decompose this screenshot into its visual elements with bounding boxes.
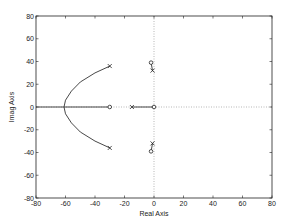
y-tick-label: 60 — [26, 35, 34, 42]
zero-marker — [149, 61, 153, 65]
x-tick-label: -20 — [119, 200, 129, 207]
y-tick-label: 0 — [30, 104, 34, 111]
y-tick-label: -40 — [24, 149, 34, 156]
y-tick-label: -20 — [24, 126, 34, 133]
x-tick-label: -40 — [90, 200, 100, 207]
x-tick-label: 20 — [180, 200, 188, 207]
x-tick-label: 80 — [268, 200, 276, 207]
zero-marker — [152, 105, 156, 109]
pole-marker — [108, 64, 112, 68]
y-tick-label: 40 — [26, 58, 34, 65]
locus-branch-complex-upper — [64, 66, 110, 107]
x-tick-label: -60 — [60, 200, 70, 207]
y-tick-label: -60 — [24, 172, 34, 179]
locus-branch-complex-lower — [64, 107, 110, 148]
y-tick-label: 20 — [26, 81, 34, 88]
x-tick-label: 60 — [239, 200, 247, 207]
pole-marker — [108, 146, 112, 150]
zero-marker — [108, 105, 112, 109]
zero-marker — [149, 150, 153, 154]
locus-branches — [36, 63, 154, 152]
x-axis-label: Real Axis — [139, 210, 169, 217]
y-axis-label: Imag Axis — [8, 91, 16, 122]
x-tick-label: 0 — [152, 200, 156, 207]
x-tick-label: 40 — [209, 200, 217, 207]
y-tick-label: 80 — [26, 13, 34, 20]
y-tick-label: -80 — [24, 195, 34, 202]
axis-ticks: -80-60-40-20020406080-80-60-40-200204060… — [24, 13, 276, 208]
root-locus-plot: -80-60-40-20020406080-80-60-40-200204060… — [0, 0, 291, 221]
